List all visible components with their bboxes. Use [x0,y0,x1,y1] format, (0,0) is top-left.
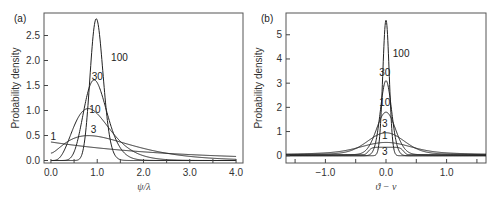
y-tick-label: 0 [276,150,282,161]
panel-b-x-axis-label: ϑ − ν [375,181,397,192]
y-tick-label: 2.0 [26,55,40,66]
y-tick-label: 1 [276,126,282,137]
y-tick-label: 0.5 [26,130,40,141]
panel-a-curves [51,19,236,161]
y-tick-label: 3 [276,78,282,89]
curve-label-30: 30 [379,67,391,78]
x-tick-label: 3.0 [183,167,197,178]
panel-a: (a) 0.00.51.01.52.02.50.01.02.03.04.0 13… [10,13,243,192]
curve-label-3: 3 [91,124,97,135]
panel-a-frame [44,13,243,163]
curve-label-1: 1 [50,131,56,142]
x-tick-label: 0.0 [44,167,58,178]
x-tick-label: 0.0 [379,167,393,178]
curve-label-1: 1 [382,130,388,141]
y-tick-label: 2.5 [26,30,40,41]
panel-a-label: (a) [14,13,26,24]
curve-1 [51,142,236,156]
curve-100 [51,19,236,161]
curve-label-10: 10 [89,104,101,115]
x-tick-label: 1.0 [90,167,104,178]
x-tick-label: −1.0 [316,167,336,178]
y-tick-label: 1.5 [26,80,40,91]
panel-b: (b) 012345−1.00.01.0 1331030100 Probabil… [253,13,486,192]
panel-a-x-axis-label: ψ/λ [137,181,151,192]
y-tick-label: 2 [276,102,282,113]
x-tick-label: 2.0 [137,167,151,178]
x-tick-label: 4.0 [229,167,243,178]
panel-b-label: (b) [261,13,273,24]
curve-label-3b: 3 [382,146,388,157]
curve-label-100: 100 [393,48,410,59]
panel-a-y-axis-label: Probability density [10,47,21,128]
figure: (a) 0.00.51.01.52.02.50.01.02.03.04.0 13… [0,0,496,197]
curve-label-100: 100 [111,52,128,63]
y-tick-label: 5 [276,29,282,40]
y-tick-label: 0.0 [26,155,40,166]
x-tick-label: 1.0 [440,167,454,178]
y-tick-label: 4 [276,53,282,64]
curve-label-30: 30 [92,71,104,82]
curve-label-3: 3 [382,118,388,129]
panel-a-curve-labels: 131030100 [50,52,128,142]
y-tick-label: 1.0 [26,105,40,116]
panel-b-curve-labels: 1331030100 [379,48,410,157]
curve-label-10: 10 [379,97,391,108]
panel-b-y-axis-label: Probability density [253,47,264,128]
